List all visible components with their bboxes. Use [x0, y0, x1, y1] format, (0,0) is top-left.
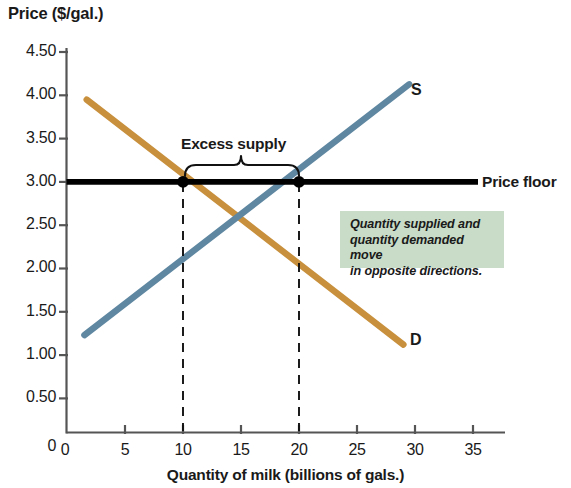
x-axis-title: Quantity of milk (billions of gals.)	[0, 466, 571, 484]
x-tick-label: 15	[221, 441, 261, 459]
x-tick-label: 20	[279, 441, 319, 459]
y-tick-label: 2.50	[2, 215, 56, 233]
demand-curve-label: D	[410, 331, 422, 349]
supply-curve	[84, 84, 409, 335]
excess-supply-brace	[185, 156, 299, 176]
x-tick-label: 25	[337, 441, 377, 459]
x-tick-label: 10	[163, 441, 203, 459]
y-tick-label: 1.00	[2, 345, 56, 363]
quantity-demanded-point	[177, 176, 189, 188]
note-line-3: in opposite directions.	[350, 264, 496, 280]
excess-supply-label: Excess supply	[181, 135, 286, 153]
x-tick-label: 30	[395, 441, 435, 459]
price-floor-label: Price floor	[482, 173, 556, 191]
y-tick-label: 4.50	[2, 42, 56, 60]
quantity-supplied-point	[293, 176, 305, 188]
note-box: Quantity supplied and quantity demanded …	[340, 211, 504, 268]
y-tick-label: 3.00	[2, 172, 56, 190]
note-line-1: Quantity supplied and	[350, 217, 496, 233]
y-tick-label: 1.50	[2, 302, 56, 320]
y-tick-label: 0.50	[2, 388, 56, 406]
y-tick-label: 2.00	[2, 258, 56, 276]
x-tick-label: 0	[45, 441, 85, 459]
x-tick-label: 35	[453, 441, 493, 459]
x-tick-label: 5	[105, 441, 145, 459]
y-tick-label: 4.00	[2, 85, 56, 103]
y-tick-label: 3.50	[2, 129, 56, 147]
chart-figure: Price ($/gal.)	[0, 0, 571, 488]
note-line-2: quantity demanded move	[350, 233, 496, 264]
supply-curve-label: S	[411, 81, 422, 99]
